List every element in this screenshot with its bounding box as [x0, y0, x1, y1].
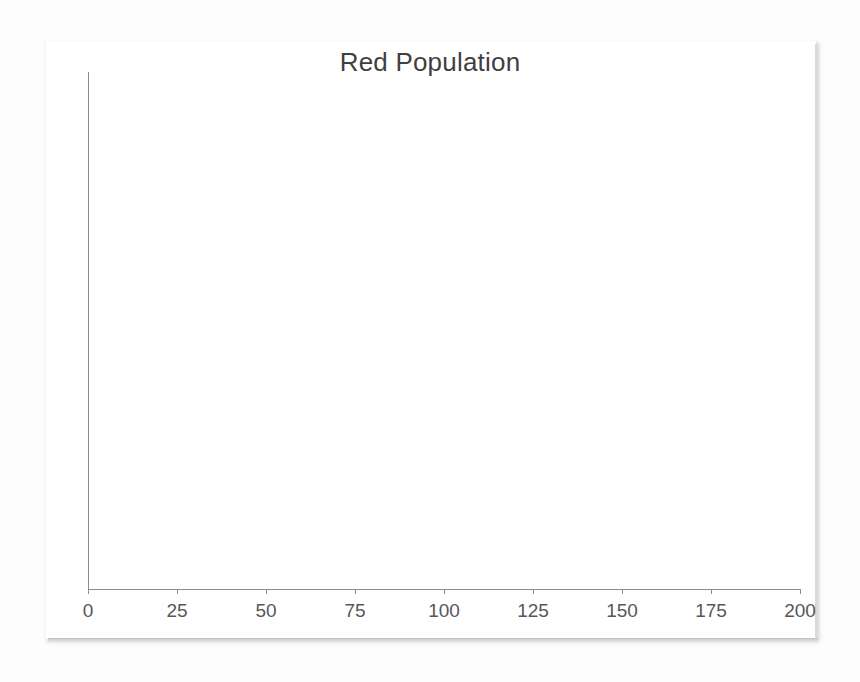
x-axis-tick-label: 0 [53, 599, 123, 623]
x-axis-tick-label: 175 [676, 599, 746, 623]
x-axis-tick [266, 589, 267, 594]
plot-area: 0255075100125150175200 [88, 72, 800, 590]
x-axis-tick-layer: 0255075100125150175200 [88, 589, 800, 590]
x-axis-tick-label: 150 [587, 599, 657, 623]
plot-series-layer [88, 72, 800, 590]
chart-figure: Red Population 0255075100125150175200 [45, 40, 815, 638]
x-axis-tick [177, 589, 178, 594]
x-axis-tick [622, 589, 623, 594]
page-bottom-shadow [48, 638, 818, 642]
x-axis-tick-label: 50 [231, 599, 301, 623]
page-right-shadow [815, 44, 819, 640]
x-axis-tick [88, 589, 89, 594]
x-axis-tick [444, 589, 445, 594]
x-axis-tick [533, 589, 534, 594]
screenshot-canvas: Red Population 0255075100125150175200 [0, 0, 860, 682]
x-axis-tick-label: 200 [765, 599, 835, 623]
x-axis-tick-label: 100 [409, 599, 479, 623]
x-axis-tick [711, 589, 712, 594]
x-axis-tick-label: 125 [498, 599, 568, 623]
x-axis-tick-label: 75 [320, 599, 390, 623]
x-axis-tick [355, 589, 356, 594]
x-axis-tick [800, 589, 801, 594]
x-axis-tick-label: 25 [142, 599, 212, 623]
